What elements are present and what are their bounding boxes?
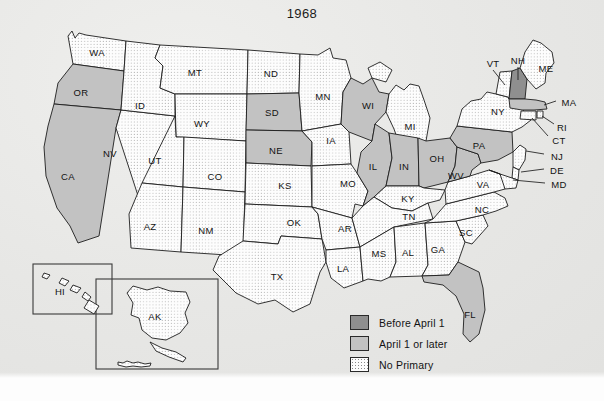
state-label-TX: TX bbox=[271, 271, 284, 282]
state-label-WI: WI bbox=[362, 100, 374, 111]
state-label-NM: NM bbox=[198, 225, 213, 236]
state-label-IA: IA bbox=[326, 135, 336, 146]
alaska-landmass[interactable] bbox=[118, 286, 190, 367]
state-label-GA: GA bbox=[431, 244, 446, 255]
state-CA[interactable] bbox=[44, 104, 121, 243]
page-bottom-margin bbox=[0, 372, 604, 401]
state-label-MS: MS bbox=[372, 248, 387, 259]
state-label-NC: NC bbox=[475, 204, 489, 215]
state-label-MD: MD bbox=[551, 179, 566, 190]
state-label-OH: OH bbox=[430, 153, 445, 164]
state-label-IN: IN bbox=[399, 161, 409, 172]
state-NJ[interactable] bbox=[513, 145, 526, 170]
state-CT[interactable] bbox=[520, 111, 536, 120]
state-label-HI: HI bbox=[55, 286, 65, 297]
state-label-ND: ND bbox=[264, 68, 278, 79]
leader-line-CT bbox=[532, 118, 548, 136]
state-label-LA: LA bbox=[337, 263, 350, 274]
state-label-PA: PA bbox=[473, 140, 486, 151]
state-label-RI: RI bbox=[557, 122, 567, 133]
state-label-MO: MO bbox=[340, 178, 356, 189]
state-label-ID: ID bbox=[135, 100, 145, 111]
state-label-UT: UT bbox=[148, 155, 161, 166]
leader-line-MA bbox=[544, 101, 556, 105]
state-label-NE: NE bbox=[269, 145, 283, 156]
state-label-AK: AK bbox=[148, 311, 162, 322]
state-label-AR: AR bbox=[338, 223, 352, 234]
leader-line-DE bbox=[521, 169, 544, 172]
leader-line-NJ bbox=[526, 151, 544, 154]
hawaii-islands[interactable] bbox=[42, 273, 99, 314]
state-label-NJ: NJ bbox=[551, 151, 563, 162]
state-label-OR: OR bbox=[74, 87, 89, 98]
state-label-KY: KY bbox=[401, 193, 415, 204]
state-label-FL: FL bbox=[464, 309, 476, 320]
state-label-DE: DE bbox=[550, 165, 564, 176]
state-label-SC: SC bbox=[459, 227, 473, 238]
state-WY[interactable] bbox=[175, 94, 247, 141]
state-label-NH: NH bbox=[511, 55, 525, 66]
state-label-TN: TN bbox=[402, 211, 415, 222]
leader-line-RI bbox=[542, 116, 554, 124]
legend-label-april-1-or-later: April 1 or later bbox=[379, 338, 448, 350]
state-label-CA: CA bbox=[61, 171, 75, 182]
legend-swatch-before-april-1 bbox=[350, 315, 369, 330]
state-label-ME: ME bbox=[539, 63, 554, 74]
state-label-OK: OK bbox=[287, 217, 302, 228]
state-label-MI: MI bbox=[404, 121, 415, 132]
us-map: WA OR CA ID NV MT WY UT AZ CO NM ND SD N… bbox=[0, 0, 604, 401]
state-label-SD: SD bbox=[265, 107, 279, 118]
state-label-NV: NV bbox=[103, 148, 117, 159]
legend-swatch-no-primary bbox=[350, 357, 369, 372]
state-MA[interactable] bbox=[509, 99, 547, 110]
state-label-MT: MT bbox=[188, 67, 202, 78]
state-label-IL: IL bbox=[369, 161, 378, 172]
state-label-CO: CO bbox=[208, 171, 223, 182]
state-label-AL: AL bbox=[402, 247, 414, 258]
state-label-CT: CT bbox=[552, 135, 565, 146]
state-label-VT: VT bbox=[487, 58, 500, 69]
state-RI[interactable] bbox=[537, 111, 543, 118]
state-OR[interactable] bbox=[54, 64, 124, 110]
state-label-NY: NY bbox=[491, 106, 505, 117]
legend-label-before-april-1: Before April 1 bbox=[379, 317, 445, 329]
state-label-WY: WY bbox=[194, 118, 210, 129]
state-label-AZ: AZ bbox=[144, 221, 157, 232]
state-label-WA: WA bbox=[89, 47, 105, 58]
map-legend: Before April 1 April 1 or later No Prima… bbox=[350, 312, 448, 375]
state-label-MN: MN bbox=[315, 91, 330, 102]
map-figure: 1968 bbox=[0, 0, 604, 401]
state-label-VA: VA bbox=[477, 179, 490, 190]
legend-label-no-primary: No Primary bbox=[379, 359, 434, 371]
legend-swatch-april-1-or-later bbox=[350, 336, 369, 351]
state-label-MA: MA bbox=[562, 97, 577, 108]
legend-item-april-1-or-later[interactable]: April 1 or later bbox=[350, 333, 448, 354]
state-CO[interactable] bbox=[183, 137, 246, 192]
legend-item-before-april-1[interactable]: Before April 1 bbox=[350, 312, 448, 333]
state-label-KS: KS bbox=[278, 180, 291, 191]
state-label-WV: WV bbox=[448, 170, 464, 181]
